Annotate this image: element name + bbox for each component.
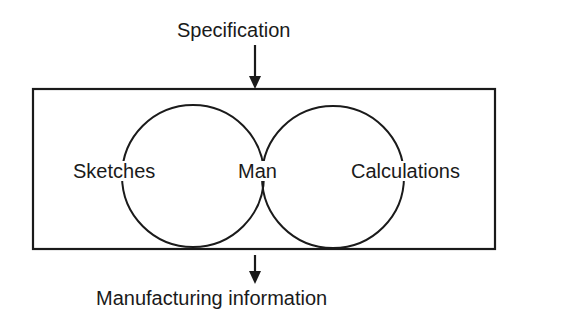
- node-man: Man: [236, 161, 279, 181]
- output-label: Manufacturing information: [96, 288, 327, 308]
- input-label: Specification: [177, 20, 290, 40]
- output-arrow: [249, 255, 261, 284]
- input-arrow: [249, 45, 261, 89]
- node-sketches: Sketches: [71, 161, 157, 181]
- node-calculations: Calculations: [349, 161, 462, 181]
